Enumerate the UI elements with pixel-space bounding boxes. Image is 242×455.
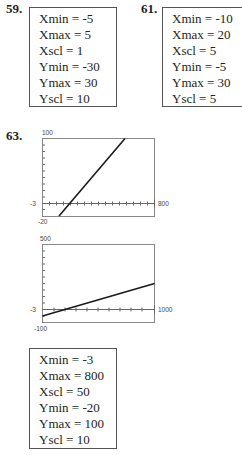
graph2-xmin-label: -3 [30, 306, 36, 313]
xmax: Xmax = 800 [39, 368, 116, 384]
ymax: Ymax = 100 [39, 416, 116, 432]
graph2-xmax-label: 1000 [158, 306, 172, 313]
xscl: Xscl = 50 [39, 384, 116, 400]
yscl: Yscl = 10 [39, 432, 116, 448]
xmin: Xmin = -3 [39, 352, 116, 368]
graph2-ymax-label: 500 [40, 235, 51, 242]
window-settings-63: Xmin = -3 Xmax = 800 Xscl = 50 Ymin = -2… [29, 348, 117, 449]
graph2-ymin-label: -100 [34, 325, 47, 332]
ymin: Ymin = -20 [39, 400, 116, 416]
